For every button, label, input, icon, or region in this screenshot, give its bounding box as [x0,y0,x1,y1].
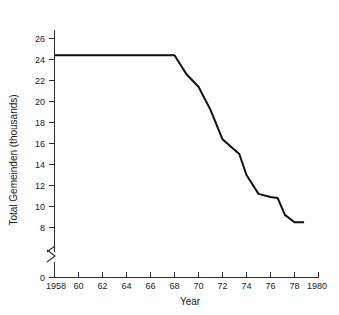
x-tick-label-1980: 1980 [307,281,327,291]
x-tick-label-1976: 76 [265,281,275,291]
y-axis [47,30,55,277]
y-tick-label-12: 12 [35,181,45,191]
y-tick-label-8: 8 [40,223,45,233]
chart-container: 26 24 22 20 18 16 14 12 10 8 0 [0,0,339,315]
y-tick-label-22: 22 [35,76,45,86]
data-series-line [55,55,305,222]
x-tick-label-1970: 70 [193,281,203,291]
y-axis-title: Total Gemeinden (thousands) [8,94,19,225]
x-tick-label-1958: 1958 [46,281,66,291]
x-tick-label-1962: 62 [97,281,107,291]
y-tick-label-16: 16 [35,139,45,149]
y-tick-marks [49,39,55,278]
x-tick-label-1968: 68 [169,281,179,291]
y-tick-labels: 26 24 22 20 18 16 14 12 10 8 0 [35,34,45,283]
y-tick-label-10: 10 [35,202,45,212]
y-tick-label-24: 24 [35,55,45,65]
y-tick-label-14: 14 [35,160,45,170]
x-tick-label-1966: 66 [145,281,155,291]
x-tick-label-1964: 64 [121,281,131,291]
x-axis-title: Year [180,296,201,307]
x-tick-label-1974: 74 [241,281,251,291]
axis-break-icon-lower [47,246,55,252]
line-chart: 26 24 22 20 18 16 14 12 10 8 0 [0,0,339,315]
y-tick-label-0: 0 [40,273,45,283]
x-tick-label-1978: 78 [289,281,299,291]
x-tick-labels: 1958 60 62 64 66 68 70 72 74 76 78 1980 [46,281,327,291]
x-tick-label-1972: 72 [217,281,227,291]
x-tick-marks [55,272,319,278]
axis-break-icon [47,250,55,262]
x-tick-label-1960: 60 [73,281,83,291]
y-tick-label-20: 20 [35,97,45,107]
y-tick-label-26: 26 [35,34,45,44]
y-tick-label-18: 18 [35,118,45,128]
